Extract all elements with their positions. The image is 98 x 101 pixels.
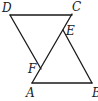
label-c: C [72,0,81,14]
label-a: A [25,86,35,100]
label-b: B [91,86,98,100]
label-f: F [27,62,37,76]
geometry-diagram: D C E F A B [0,0,98,101]
label-e: E [65,24,75,38]
segment-df [10,15,41,69]
label-d: D [1,1,12,15]
